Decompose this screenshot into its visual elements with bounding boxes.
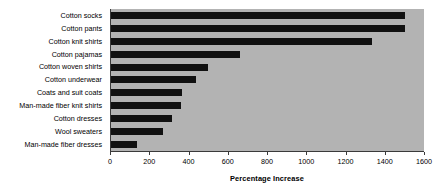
bar-chart: Cotton socksCotton pantsCotton knit shir…: [0, 0, 443, 196]
bar-row: [111, 86, 424, 99]
category-label: Man-made fiber dresses: [0, 138, 106, 151]
category-label: Man-made fiber knit shirts: [0, 99, 106, 112]
bar-row: [111, 9, 424, 22]
category-label: Cotton woven shirts: [0, 61, 106, 74]
tick-mark: [110, 152, 111, 155]
bar-row: [111, 22, 424, 35]
bar: [111, 89, 182, 96]
bar-row: [111, 125, 424, 138]
tick-label: 400: [183, 156, 195, 167]
tick-label: 1000: [298, 156, 314, 167]
tick-label: 1600: [416, 156, 432, 167]
bar: [111, 115, 172, 122]
category-axis: Cotton socksCotton pantsCotton knit shir…: [0, 9, 106, 151]
bar-row: [111, 138, 424, 151]
tick-label: 800: [261, 156, 273, 167]
bar-row: [111, 112, 424, 125]
bar: [111, 25, 405, 32]
tick-label: 200: [143, 156, 155, 167]
category-label: Wool sweaters: [0, 125, 106, 138]
tick-label: 600: [222, 156, 234, 167]
bar: [111, 76, 196, 83]
plot-area: [110, 9, 424, 151]
tick-mark: [346, 152, 347, 155]
tick-mark: [306, 152, 307, 155]
bar-row: [111, 61, 424, 74]
category-label: Coats and suit coats: [0, 86, 106, 99]
bar: [111, 64, 208, 71]
tick-label: 1400: [377, 156, 393, 167]
bar: [111, 102, 181, 109]
category-label: Cotton socks: [0, 9, 106, 22]
category-label: Cotton pants: [0, 22, 106, 35]
category-label: Cotton underwear: [0, 74, 106, 87]
category-label: Cotton pajamas: [0, 48, 106, 61]
tick-mark: [267, 152, 268, 155]
tick-mark: [385, 152, 386, 155]
tick-label: 1200: [338, 156, 354, 167]
tick-label: 0: [108, 156, 112, 167]
bar-row: [111, 35, 424, 48]
category-label: Cotton knit shirts: [0, 35, 106, 48]
bar: [111, 141, 137, 148]
x-axis-tick-labels: 02004006008001000120014001600: [110, 156, 424, 168]
tick-mark: [228, 152, 229, 155]
bars-layer: [111, 9, 424, 151]
bar: [111, 128, 163, 135]
tick-mark: [424, 152, 425, 155]
tick-mark: [189, 152, 190, 155]
x-axis-title: Percentage Increase: [110, 174, 424, 183]
bar: [111, 51, 240, 58]
tick-mark: [149, 152, 150, 155]
bar-row: [111, 74, 424, 87]
category-label: Cotton dresses: [0, 112, 106, 125]
bar: [111, 12, 405, 19]
bar: [111, 38, 372, 45]
bar-row: [111, 99, 424, 112]
bar-row: [111, 48, 424, 61]
